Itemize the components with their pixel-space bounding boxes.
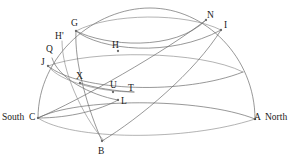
arc-ellipse-GHN-back	[76, 17, 221, 31]
arc-meridian-JT	[48, 66, 134, 92]
node-dot-X	[79, 82, 81, 84]
point-label-L: L	[121, 97, 127, 107]
point-label-H: H	[112, 41, 119, 51]
node-dot-G	[75, 30, 77, 32]
node-dot-J	[47, 65, 49, 67]
point-label-Hp: H'	[55, 32, 64, 42]
node-dot-B	[101, 140, 103, 142]
point-label-X: X	[76, 72, 83, 82]
node-dot-U	[112, 91, 114, 93]
point-label-I: I	[224, 21, 227, 31]
cardinal-label-north: North	[265, 113, 287, 123]
point-label-U: U	[110, 81, 117, 91]
node-dot-I	[220, 29, 222, 31]
node-dot-C	[37, 117, 39, 119]
point-label-C: C	[29, 113, 35, 123]
arc-horizon-back	[38, 103, 255, 119]
point-label-J: J	[41, 58, 45, 68]
point-label-G: G	[71, 19, 78, 29]
point-label-Q: Q	[46, 45, 53, 55]
point-label-T: T	[128, 84, 134, 94]
arc-ellipse-GHN-front	[76, 30, 221, 48]
point-label-N: N	[207, 11, 214, 21]
arc-horizon-front	[38, 118, 255, 135]
sphere-drawing	[0, 0, 295, 166]
point-label-B: B	[98, 147, 104, 157]
cardinal-label-south: South	[2, 113, 24, 123]
node-dot-L	[117, 99, 119, 101]
point-label-A: A	[254, 113, 261, 123]
arc-arc-L-down	[38, 100, 118, 118]
celestial-sphere-figure: GNIH'HQJXUTLCAB SouthNorth	[0, 0, 295, 166]
